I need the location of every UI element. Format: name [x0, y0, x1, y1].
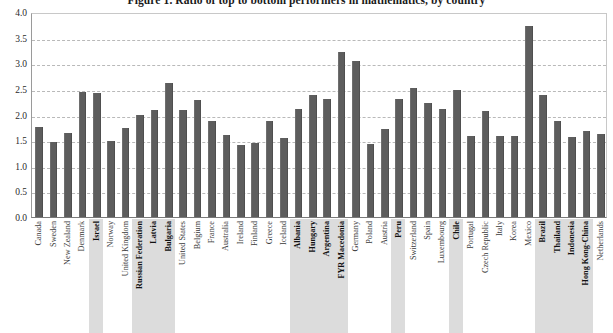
- bar: [64, 133, 71, 217]
- bar: [122, 128, 129, 217]
- bar: [568, 137, 575, 217]
- x-tick: United States: [175, 219, 189, 333]
- x-tick: Thailand: [549, 219, 563, 333]
- x-tick-label: Iceland: [278, 221, 287, 245]
- x-tick: Bulgaria: [161, 219, 175, 333]
- bar: [194, 100, 201, 217]
- x-tick: New Zealand: [60, 219, 74, 333]
- bar: [179, 110, 186, 217]
- x-tick-label: Poland: [365, 221, 374, 244]
- x-tick: Finland: [247, 219, 261, 333]
- bar: [35, 127, 42, 217]
- x-tick-label: Latvia: [149, 221, 158, 244]
- bar: [554, 121, 561, 217]
- bar: [107, 141, 114, 217]
- x-tick: Austria: [377, 219, 391, 333]
- y-tick-label: 1.0: [15, 162, 27, 172]
- x-tick: Spain: [420, 219, 434, 333]
- x-tick-label: Belgium: [192, 221, 201, 249]
- x-tick-label: Sweden: [48, 221, 57, 247]
- x-tick: Indonesia: [564, 219, 578, 333]
- x-tick-label: Bulgaria: [163, 221, 172, 251]
- x-tick-label: Finland: [250, 221, 259, 246]
- bar: [511, 136, 518, 217]
- bar: [237, 145, 244, 217]
- bar: [583, 131, 590, 217]
- x-axis: CanadaSwedenNew ZealandDenmarkIsraelNorw…: [31, 219, 607, 333]
- x-tick: Greece: [261, 219, 275, 333]
- y-tick-label: 0.0: [15, 213, 27, 223]
- x-tick-label: Switzerland: [408, 221, 417, 260]
- x-tick-label: Korea: [509, 221, 518, 241]
- x-tick-label: Ireland: [235, 221, 244, 244]
- x-tick-label: United States: [178, 221, 187, 265]
- x-tick-label: Luxembourg: [437, 221, 446, 263]
- y-tick-label: 4.0: [15, 8, 27, 18]
- x-tick-label: United Kingdom: [120, 221, 129, 276]
- x-tick-label: Austria: [379, 221, 388, 245]
- bar: [424, 103, 431, 217]
- bar: [482, 111, 489, 217]
- bar: [266, 121, 273, 217]
- x-tick-label: Chile: [451, 221, 460, 240]
- bar: [439, 109, 446, 217]
- x-tick: Canada: [31, 219, 45, 333]
- x-tick: Denmark: [74, 219, 88, 333]
- bar: [208, 121, 215, 217]
- x-tick: Latvia: [146, 219, 160, 333]
- x-tick-label: Indonesia: [566, 221, 575, 255]
- x-tick: Germany: [348, 219, 362, 333]
- plot-area: [31, 13, 607, 218]
- x-tick-label: Denmark: [77, 221, 86, 251]
- chart-title: Figure 1. Ratio of top to bottom perform…: [0, 0, 613, 9]
- x-tick-label: Portugal: [466, 221, 475, 249]
- bar: [496, 136, 503, 217]
- x-tick: France: [204, 219, 218, 333]
- bar: [251, 143, 258, 217]
- x-tick: Hong Kong-China: [578, 219, 592, 333]
- x-tick-label: Italy: [494, 221, 503, 236]
- x-tick: Czech Republic: [477, 219, 491, 333]
- x-tick-label: Israel: [91, 221, 100, 241]
- x-tick-label: Argentina: [322, 221, 331, 256]
- x-tick: Korea: [506, 219, 520, 333]
- y-tick-label: 3.0: [15, 59, 27, 69]
- x-tick: Peru: [391, 219, 405, 333]
- x-tick: Poland: [362, 219, 376, 333]
- bar: [136, 115, 143, 218]
- x-tick-label: Norway: [106, 221, 115, 247]
- x-tick-label: Russian Federation: [134, 221, 143, 289]
- x-tick-label: Germany: [350, 221, 359, 251]
- x-tick-label: Albania: [293, 221, 302, 249]
- bar: [50, 142, 57, 217]
- bar: [525, 26, 532, 217]
- x-tick: Mexico: [521, 219, 535, 333]
- x-tick: Netherlands: [593, 219, 607, 333]
- y-tick-label: 2.0: [15, 111, 27, 121]
- x-tick-label: Mexico: [523, 221, 532, 246]
- bar: [367, 144, 374, 217]
- y-tick-label: 2.5: [15, 85, 27, 95]
- x-tick: Ireland: [233, 219, 247, 333]
- x-tick-label: Greece: [264, 221, 273, 244]
- y-axis: 0.00.51.01.52.02.53.03.54.0: [0, 0, 30, 218]
- bar: [165, 83, 172, 217]
- x-tick-label: Canada: [34, 221, 43, 246]
- bar: [79, 92, 86, 217]
- x-tick: Sweden: [45, 219, 59, 333]
- x-tick-label: FYR Macedonia: [336, 221, 345, 279]
- y-tick-label: 3.5: [15, 34, 27, 44]
- bar: [597, 134, 604, 217]
- x-tick: Israel: [89, 219, 103, 333]
- bar: [453, 90, 460, 217]
- x-tick-label: Spain: [422, 221, 431, 240]
- bar: [338, 52, 345, 217]
- bar: [352, 61, 359, 217]
- x-tick: Norway: [103, 219, 117, 333]
- x-tick-label: France: [206, 221, 215, 243]
- x-tick-label: Australia: [221, 221, 230, 251]
- x-tick: United Kingdom: [117, 219, 131, 333]
- x-tick-label: Hungary: [307, 221, 316, 252]
- x-tick-label: New Zealand: [62, 221, 71, 265]
- bar: [539, 95, 546, 217]
